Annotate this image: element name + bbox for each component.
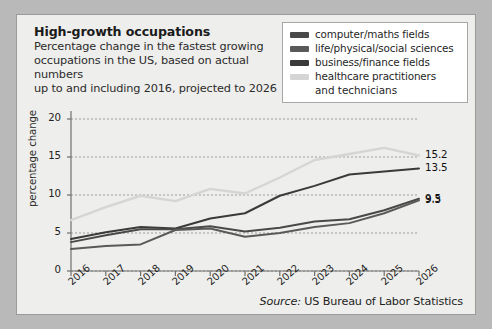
legend-item-label-continued: and technicians (315, 84, 461, 97)
legend-item-life-sciences: life/physical/social sciences (290, 42, 461, 55)
source-text: US Bureau of Labor Statistics (304, 295, 463, 308)
subtitle-line-2: occupations in the US, based on actual n… (34, 54, 284, 82)
source-prefix: Source: (260, 295, 301, 308)
series-end-value-label: 15.2 (425, 148, 448, 160)
y-axis-tick-label: 5 (39, 226, 61, 237)
data-series-line (71, 200, 419, 249)
chart-legend: computer/maths fields life/physical/soci… (282, 22, 468, 103)
legend-item-label: healthcare practitioners (315, 70, 436, 83)
legend-swatch-icon (290, 32, 309, 38)
y-axis-tick-label: 10 (39, 188, 61, 199)
legend-swatch-icon (290, 46, 309, 52)
legend-item-label: computer/maths fields (315, 28, 429, 41)
legend-item-label: life/physical/social sciences (315, 42, 454, 55)
data-series-line (71, 148, 419, 220)
legend-item-label: business/finance fields (315, 56, 430, 69)
series-end-value-label: 13.5 (425, 161, 448, 173)
series-end-value-label: 9.3 (425, 193, 441, 205)
y-axis-tick-label: 15 (39, 150, 61, 161)
page-title: High-growth occupations (34, 24, 210, 39)
y-axis-label: percentage change (27, 110, 38, 207)
figure-panel: High-growth occupations Percentage chang… (16, 14, 476, 315)
legend-item-business-finance: business/finance fields (290, 56, 461, 69)
data-series-line (71, 168, 419, 239)
legend-swatch-icon (290, 60, 309, 66)
legend-swatch-icon (290, 74, 309, 80)
legend-item-computer-maths: computer/maths fields (290, 28, 461, 41)
chart-plot-area: percentage change 0510152020162017201820… (31, 103, 463, 289)
data-series-line (71, 199, 419, 242)
subtitle-line-3: up to and including 2016, projected to 2… (34, 82, 284, 96)
legend-item-healthcare: healthcare practitioners (290, 70, 461, 83)
figure-subtitle: Percentage change in the fastest growing… (34, 40, 284, 96)
y-axis-tick-label: 20 (39, 112, 61, 123)
line-chart-svg (31, 103, 463, 289)
source-note: Source: US Bureau of Labor Statistics (260, 295, 463, 308)
subtitle-line-1: Percentage change in the fastest growing (34, 40, 284, 54)
y-axis-tick-label: 0 (39, 264, 61, 275)
